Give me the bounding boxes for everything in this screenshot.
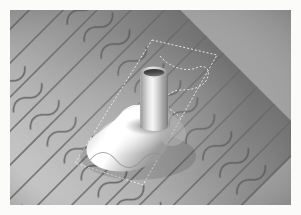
scene-svg xyxy=(10,10,291,205)
scene-contents xyxy=(10,10,291,205)
roof-illustration xyxy=(10,10,291,205)
pipe-bore xyxy=(144,69,165,76)
figure-root: Grayscale illustration of a cylindrical … xyxy=(0,0,301,215)
pipe-barrel xyxy=(140,72,168,131)
